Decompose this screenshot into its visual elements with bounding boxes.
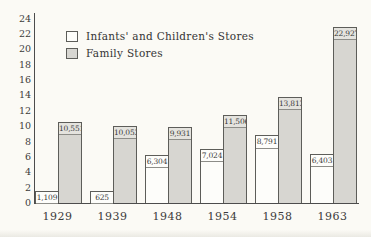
bar-value-label: 6,403 xyxy=(311,155,333,167)
bar-white-1948: 6,304 xyxy=(145,155,169,203)
x-axis-labels: 192919391948195419581963 xyxy=(34,210,356,223)
bar-value-label: 7,024 xyxy=(201,150,223,162)
bar-group-1939: 62510,053 xyxy=(90,126,137,203)
bar-value-label: 10,551 xyxy=(59,123,81,135)
bar-gray-1929: 10,551 xyxy=(58,122,82,203)
bar-gray-1958: 13,813 xyxy=(278,97,302,203)
y-tick-4: 4 xyxy=(7,167,31,177)
bar-value-label: 22,927 xyxy=(334,28,356,40)
y-tick-0: 0 xyxy=(7,198,31,208)
y-tick-16: 16 xyxy=(7,75,31,85)
bar-gray-1954: 11,506 xyxy=(223,115,247,203)
bar-white-1929: 1,109 xyxy=(35,191,59,203)
y-tick-8: 8 xyxy=(7,137,31,147)
bar-value-label: 9,931 xyxy=(169,128,191,140)
x-label-1948: 1948 xyxy=(144,210,191,223)
x-label-1939: 1939 xyxy=(89,210,136,223)
bar-value-label: 8,791 xyxy=(256,136,278,148)
bar-gray-1948: 9,931 xyxy=(168,127,192,203)
bar-value-label: 625 xyxy=(91,192,113,204)
bar-gray-1963: 22,927 xyxy=(333,27,357,203)
x-label-1958: 1958 xyxy=(254,210,301,223)
y-tick-20: 20 xyxy=(7,44,31,54)
bar-group-1948: 6,3049,931 xyxy=(145,127,192,203)
bar-value-label: 13,813 xyxy=(279,98,301,110)
x-label-1954: 1954 xyxy=(199,210,246,223)
bar-white-1958: 8,791 xyxy=(255,135,279,203)
bar-group-1954: 7,02411,506 xyxy=(200,115,247,203)
x-label-1929: 1929 xyxy=(34,210,81,223)
bar-value-label: 11,506 xyxy=(224,116,246,128)
bar-group-1963: 6,40322,927 xyxy=(310,27,357,203)
y-tick-12: 12 xyxy=(7,106,31,116)
y-tick-22: 22 xyxy=(7,29,31,39)
y-tick-24: 24 xyxy=(7,14,31,24)
bar-group-1958: 8,79113,813 xyxy=(255,97,302,203)
y-tick-2: 2 xyxy=(7,183,31,193)
bar-groups: 1,10910,55162510,0536,3049,9317,02411,50… xyxy=(35,13,357,203)
bar-group-1929: 1,10910,551 xyxy=(35,122,82,203)
y-tick-14: 14 xyxy=(7,90,31,100)
y-tick-10: 10 xyxy=(7,121,31,131)
bar-white-1954: 7,024 xyxy=(200,149,224,203)
bar-white-1939: 625 xyxy=(90,191,114,203)
y-tick-6: 6 xyxy=(7,152,31,162)
bar-value-label: 6,304 xyxy=(146,156,168,168)
plot-area: 1,10910,55162510,0536,3049,9317,02411,50… xyxy=(34,13,359,204)
y-tick-18: 18 xyxy=(7,60,31,70)
bar-value-label: 10,053 xyxy=(114,127,136,139)
bar-chart-figure: Infants' and Children's Stores Family St… xyxy=(0,0,371,237)
bar-gray-1939: 10,053 xyxy=(113,126,137,203)
page-bottom-shadow xyxy=(0,230,371,237)
x-label-1963: 1963 xyxy=(309,210,356,223)
bar-white-1963: 6,403 xyxy=(310,154,334,203)
bar-value-label: 1,109 xyxy=(36,192,58,204)
